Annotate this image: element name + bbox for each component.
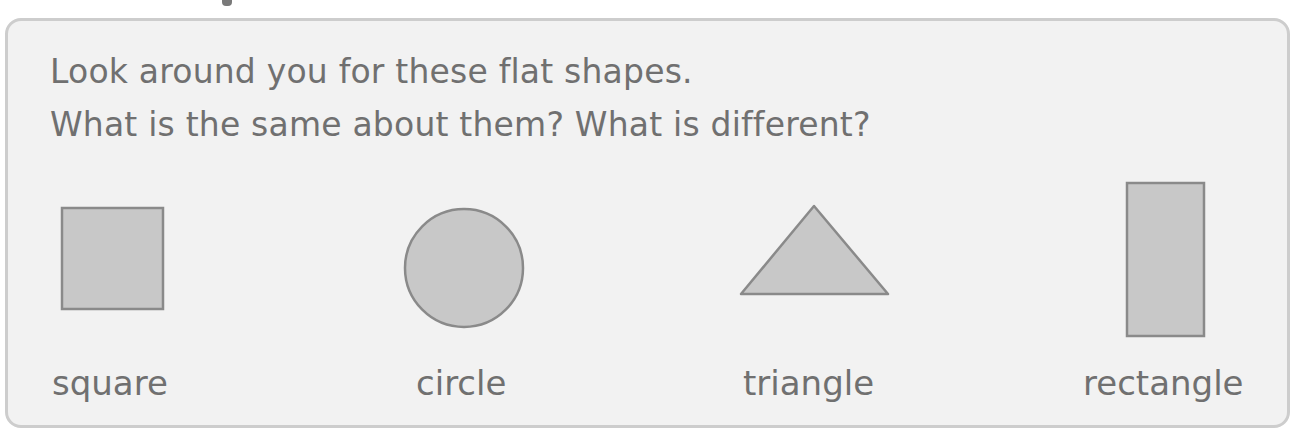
triangle-shape <box>738 203 892 297</box>
cropped-heading-fragment <box>222 0 232 6</box>
instruction-line-2: What is the same about them? What is dif… <box>50 105 871 144</box>
rectangle-shape <box>1125 181 1207 339</box>
square-label: square <box>52 363 168 403</box>
rectangle-label: rectangle <box>1083 363 1244 403</box>
square-shape <box>60 206 166 312</box>
circle-shape <box>402 206 526 330</box>
circle-label: circle <box>416 363 506 403</box>
instruction-line-1: Look around you for these flat shapes. <box>50 52 693 91</box>
triangle-label: triangle <box>743 363 874 403</box>
